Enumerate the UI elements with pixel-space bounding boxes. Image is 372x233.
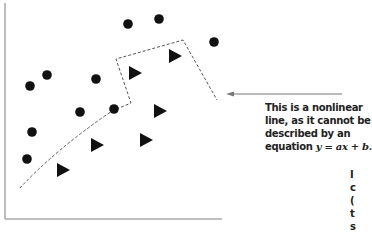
circle-marker: [91, 74, 101, 84]
annotation-line-4: equation y = ax + b.: [265, 140, 360, 153]
circle-marker: [27, 127, 37, 137]
annotation-equation: y = ax + b.: [316, 141, 372, 152]
triangle-marker: [57, 163, 70, 177]
circle-markers: [22, 14, 219, 164]
annotation-line-2: line, as it cannot be: [265, 114, 360, 127]
triangle-marker: [154, 104, 167, 118]
cutoff-char: I: [350, 168, 360, 181]
circle-marker: [22, 154, 32, 164]
cutoff-char: s: [350, 220, 360, 233]
arrow-head-icon: [226, 92, 234, 97]
triangle-marker: [129, 66, 142, 80]
annotation-line-1: This is a nonlinear: [265, 101, 360, 114]
circle-marker: [209, 37, 219, 47]
circle-marker: [154, 14, 164, 24]
cutoff-char: t: [350, 207, 360, 220]
annotation-text: This is a nonlinear line, as it cannot b…: [265, 101, 360, 153]
circle-marker: [109, 104, 119, 114]
cutoff-char: c: [350, 181, 360, 194]
circle-marker: [123, 19, 133, 29]
circle-marker: [42, 70, 52, 80]
circle-marker: [25, 81, 35, 91]
cutoff-char: (: [350, 194, 360, 207]
circle-marker: [75, 107, 85, 117]
nonlinear-boundary-line: [20, 40, 217, 188]
annotation-line-3: described by an: [265, 127, 360, 140]
triangle-marker: [169, 49, 182, 63]
annotation-line-4-prefix: equation: [265, 141, 316, 152]
cutoff-caption: I c ( t s: [350, 168, 360, 233]
triangle-marker: [140, 133, 153, 147]
triangle-marker: [91, 138, 104, 152]
